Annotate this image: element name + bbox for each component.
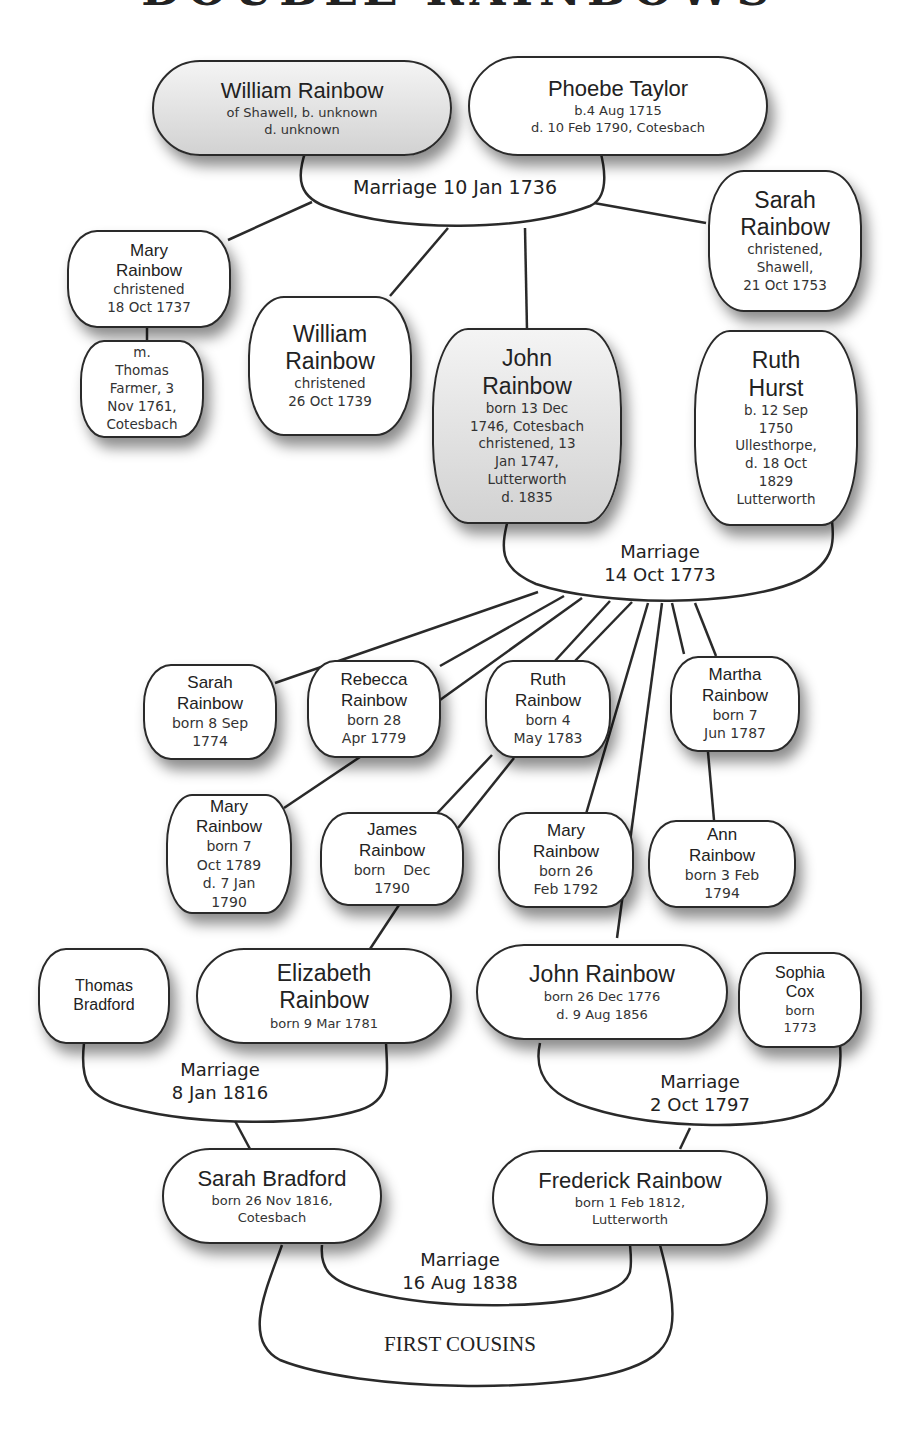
person-rebecca-rainbow-1779[interactable]: Rebecca Rainbow born 28 Apr 1779 — [307, 660, 441, 758]
person-name: Ruth Rainbow — [515, 670, 581, 710]
person-mary-rainbow-1737-marriage[interactable]: m. Thomas Farmer, 3 Nov 1761, Cotesbach — [80, 340, 204, 438]
person-sarah-rainbow-1753[interactable]: Sarah Rainbow christened, Shawell, 21 Oc… — [708, 170, 862, 312]
person-john-rainbow-1746[interactable]: John Rainbow born 13 Dec 1746, Cotesbach… — [432, 328, 622, 524]
person-details: born Dec 1790 — [354, 861, 431, 898]
person-name: Frederick Rainbow — [538, 1168, 721, 1194]
person-name: John Rainbow — [482, 345, 572, 399]
first-cousins-label: FIRST COUSINS — [310, 1332, 610, 1357]
person-name: Ruth Hurst — [749, 347, 804, 401]
person-sarah-rainbow-1774[interactable]: Sarah Rainbow born 8 Sep 1774 — [143, 664, 277, 760]
person-name: Rebecca Rainbow — [340, 670, 407, 710]
person-william-rainbow-1739[interactable]: William Rainbow christened 26 Oct 1739 — [248, 296, 412, 436]
person-name: Mary Rainbow — [116, 241, 182, 281]
person-name: James Rainbow — [359, 820, 425, 860]
person-mary-rainbow-1737[interactable]: Mary Rainbow christened 18 Oct 1737 — [67, 230, 231, 328]
person-name: Sarah Rainbow — [740, 187, 830, 241]
person-details: christened 26 Oct 1739 — [288, 375, 371, 411]
person-name: Mary Rainbow — [196, 797, 262, 837]
person-details: born 1773 — [783, 1002, 816, 1036]
person-details: born 28 Apr 1779 — [342, 711, 406, 748]
marriage-label-1838: Marriage 16 Aug 1838 — [380, 1248, 540, 1295]
person-details: born 3 Feb 1794 — [685, 866, 759, 903]
person-details: b.4 Aug 1715 d. 10 Feb 1790, Cotesbach — [531, 102, 705, 136]
person-details: of Shawell, b. unknown d. unknown — [227, 104, 378, 138]
person-james-rainbow-1790[interactable]: James Rainbow born Dec 1790 — [320, 812, 464, 906]
person-details: born 26 Dec 1776 d. 9 Aug 1856 — [544, 988, 661, 1022]
person-details: m. Thomas Farmer, 3 Nov 1761, Cotesbach — [106, 344, 177, 433]
person-name: William Rainbow — [221, 78, 384, 104]
person-phoebe-taylor[interactable]: Phoebe Taylor b.4 Aug 1715 d. 10 Feb 179… — [468, 56, 768, 156]
person-martha-rainbow-1787[interactable]: Martha Rainbow born 7 Jun 1787 — [670, 656, 800, 752]
person-name: Phoebe Taylor — [548, 76, 688, 102]
person-elizabeth-rainbow-1781[interactable]: Elizabeth Rainbow born 9 Mar 1781 — [196, 948, 452, 1044]
person-details: born 9 Mar 1781 — [270, 1015, 378, 1032]
person-frederick-rainbow[interactable]: Frederick Rainbow born 1 Feb 1812, Lutte… — [492, 1150, 768, 1246]
person-details: born 8 Sep 1774 — [172, 714, 248, 751]
person-details: christened 18 Oct 1737 — [107, 281, 190, 317]
marriage-label-1736: Marriage 10 Jan 1736 — [320, 175, 590, 200]
person-details: born 1 Feb 1812, Lutterworth — [575, 1194, 685, 1228]
person-details: born 13 Dec 1746, Cotesbach christened, … — [470, 400, 584, 507]
person-details: born 26 Feb 1792 — [534, 862, 599, 899]
person-details: born 7 Oct 1789 d. 7 Jan 1790 — [197, 837, 261, 911]
person-name: Sarah Rainbow — [177, 673, 243, 713]
person-john-rainbow-1776[interactable]: John Rainbow born 26 Dec 1776 d. 9 Aug 1… — [476, 944, 728, 1040]
person-name: Mary Rainbow — [533, 821, 599, 861]
person-details: born 7 Jun 1787 — [704, 706, 766, 743]
person-details: born 4 May 1783 — [513, 711, 582, 748]
person-sophia-cox[interactable]: Sophia Cox born 1773 — [738, 952, 862, 1048]
marriage-label-1797: Marriage 2 Oct 1797 — [620, 1070, 780, 1117]
person-ruth-hurst[interactable]: Ruth Hurst b. 12 Sep 1750 Ullesthorpe, d… — [694, 330, 858, 526]
marriage-label-1773: Marriage 14 Oct 1773 — [560, 540, 760, 587]
person-william-rainbow-sr[interactable]: William Rainbow of Shawell, b. unknown d… — [152, 60, 452, 156]
marriage-label-1816: Marriage 8 Jan 1816 — [140, 1058, 300, 1105]
person-name: Elizabeth Rainbow — [277, 960, 372, 1014]
person-name: Sarah Bradford — [197, 1166, 346, 1192]
person-mary-rainbow-1789[interactable]: Mary Rainbow born 7 Oct 1789 d. 7 Jan 17… — [166, 794, 292, 914]
person-ruth-rainbow-1783[interactable]: Ruth Rainbow born 4 May 1783 — [485, 660, 611, 758]
person-name: Ann Rainbow — [689, 825, 755, 865]
person-sarah-bradford[interactable]: Sarah Bradford born 26 Nov 1816, Cotesba… — [162, 1148, 382, 1244]
person-name: John Rainbow — [529, 961, 675, 988]
person-details: christened, Shawell, 21 Oct 1753 — [743, 241, 826, 294]
person-details: born 26 Nov 1816, Cotesbach — [211, 1192, 332, 1226]
person-name: Thomas Bradford — [73, 977, 134, 1015]
person-name: Martha Rainbow — [702, 665, 768, 705]
person-name: Sophia Cox — [775, 964, 825, 1002]
person-ann-rainbow-1794[interactable]: Ann Rainbow born 3 Feb 1794 — [648, 820, 796, 908]
person-thomas-bradford[interactable]: Thomas Bradford — [38, 948, 170, 1044]
person-details: b. 12 Sep 1750 Ullesthorpe, d. 18 Oct 18… — [735, 402, 817, 509]
person-name: William Rainbow — [285, 321, 375, 375]
person-mary-rainbow-1792[interactable]: Mary Rainbow born 26 Feb 1792 — [498, 812, 634, 908]
